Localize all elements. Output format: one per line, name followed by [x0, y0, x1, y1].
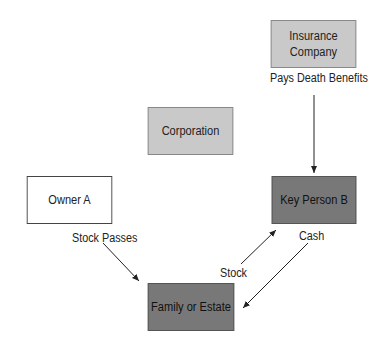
family-or-estate-node: Family or Estate: [148, 283, 234, 331]
owner-a-node: Owner A: [27, 176, 113, 224]
corporation-node: Corporation: [148, 107, 234, 155]
edge-label-pays-death-benefits: Pays Death Benefits: [270, 71, 368, 85]
family-or-estate-label: Family or Estate: [151, 299, 231, 315]
key-person-b-node: Key Person B: [272, 176, 357, 224]
arrow-owner-to-family: [103, 243, 139, 281]
owner-a-label: Owner A: [48, 192, 90, 208]
insurance-label-line1: Insurance: [289, 28, 337, 44]
edge-label-stock-passes: Stock Passes: [72, 231, 137, 245]
edge-label-cash: Cash: [299, 229, 324, 243]
insurance-company-node: Insurance Company: [271, 20, 357, 68]
key-person-b-label: Key Person B: [280, 192, 348, 208]
arrow-family-to-keyperson-stock: [241, 230, 276, 264]
corporation-label: Corporation: [162, 123, 220, 139]
edge-label-stock: Stock: [220, 266, 247, 280]
insurance-label-line2: Company: [290, 44, 337, 60]
